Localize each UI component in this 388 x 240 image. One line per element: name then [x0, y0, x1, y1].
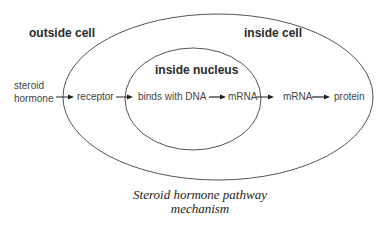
arrow-mrna-to-protein — [312, 95, 330, 100]
binds-dna-label: binds with DNA — [138, 91, 206, 102]
steroid-line1: steroid — [14, 79, 53, 92]
mrna-nucleus-label: mRNA — [228, 91, 257, 102]
arrow-dna-to-mrna — [209, 95, 226, 100]
steroid-line2: hormone — [14, 92, 53, 105]
arrow-mrna-export — [256, 95, 274, 100]
receptor-label: receptor — [77, 91, 114, 102]
arrow-hormone-to-receptor — [56, 95, 74, 100]
mrna-cytoplasm-label: mRNA — [283, 91, 312, 102]
caption-line2: mechanism — [100, 202, 300, 215]
protein-label: protein — [334, 91, 365, 102]
figure-caption: Steroid hormone pathway mechanism — [100, 188, 300, 215]
steroid-hormone-label: steroid hormone — [14, 79, 53, 105]
inside-cell-label: inside cell — [244, 26, 302, 40]
arrow-receptor-to-dna — [116, 95, 133, 100]
caption-line1: Steroid hormone pathway — [100, 188, 300, 202]
inside-nucleus-label: inside nucleus — [155, 63, 238, 77]
outside-cell-label: outside cell — [29, 26, 95, 40]
